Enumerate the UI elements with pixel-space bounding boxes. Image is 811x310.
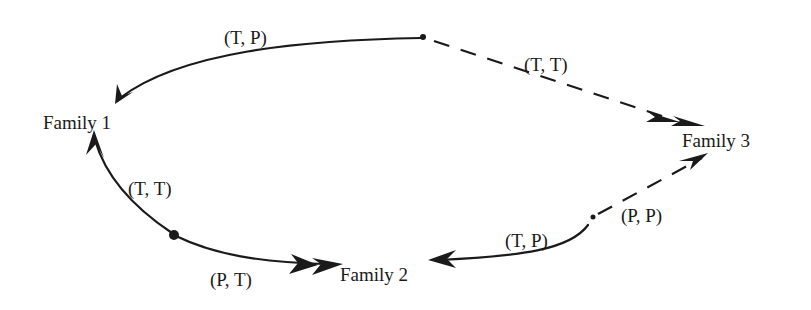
edge-right-to-family2: (T, P) <box>428 225 588 268</box>
double-arrowhead-icon <box>312 258 343 275</box>
edge-left-to-family2: (P, T) <box>176 236 343 291</box>
node-family-2: Family 2 <box>340 264 408 285</box>
edge-label-pp: (P, P) <box>621 205 662 227</box>
double-arrowhead-icon <box>289 254 318 274</box>
edge-left-to-family1: (T, T) <box>86 130 172 233</box>
edge-label-tt-top: (T, T) <box>524 54 568 76</box>
edge-top-to-family3: (T, T) <box>434 41 705 126</box>
edge-label-pt: (P, T) <box>210 269 252 291</box>
edge-label-tt-left: (T, T) <box>128 178 172 200</box>
node-family-3: Family 3 <box>682 130 750 151</box>
family-transition-diagram: (T, P) (T, T) Family 1 (T, T) (P, T) Fam… <box>0 0 811 310</box>
edge-label-tp-bottom: (T, P) <box>505 230 548 252</box>
edge-label-tp-top: (T, P) <box>224 27 267 49</box>
arrowhead-icon <box>86 130 104 158</box>
edge-top-to-family1: (T, P) <box>115 27 421 104</box>
node-family-1: Family 1 <box>43 112 111 133</box>
branch-point-right <box>591 215 596 220</box>
edge-right-to-family3: (P, P) <box>598 153 708 227</box>
